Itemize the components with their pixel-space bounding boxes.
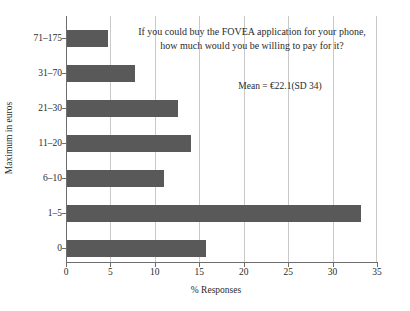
bar-11-20 (66, 135, 191, 152)
x-tick-label-0: 0 (64, 268, 69, 278)
mean-annotation: Mean = €22.1(SD 34) (205, 81, 355, 91)
gridline-35 (376, 16, 377, 262)
bar-1-5 (66, 205, 361, 222)
bar-6-10 (66, 170, 164, 187)
y-tick-label-0: 0 (57, 244, 62, 254)
y-axis-spine (66, 16, 67, 263)
bar-row (66, 93, 178, 123)
x-axis-title: % Responses (0, 285, 410, 295)
bar-row (66, 58, 135, 88)
y-tick-label-11-20: 11–20 (39, 139, 62, 149)
bar-row (66, 163, 164, 193)
y-tick-label-31-70: 31–70 (38, 69, 62, 79)
y-axis-title-text: Maximum in euros (4, 101, 14, 173)
y-tick-label-6-10: 6–10 (43, 174, 62, 184)
x-tick-label-30: 30 (328, 268, 338, 278)
x-tick-label-20: 20 (239, 268, 249, 278)
y-axis-title: Maximum in euros (2, 0, 16, 311)
bar-row (66, 23, 108, 53)
bar-row (66, 198, 361, 228)
chart-title: If you could buy the FOVEA application f… (118, 25, 386, 52)
x-tick-label-10: 10 (150, 268, 160, 278)
bar-row (66, 128, 191, 158)
plot-area (66, 16, 377, 262)
x-tick-label-35: 35 (372, 268, 382, 278)
x-axis-spine (66, 262, 378, 263)
bar-0 (66, 240, 206, 257)
chart-figure: 71–175 31–70 21–30 11–20 6–10 1–5 0 0 5 … (0, 0, 410, 311)
x-tick-label-25: 25 (283, 268, 293, 278)
chart-title-line-1: If you could buy the FOVEA application f… (138, 26, 366, 37)
y-tick-label-71-175: 71–175 (34, 34, 63, 44)
x-tick-label-5: 5 (108, 268, 113, 278)
bar-71-175 (66, 30, 108, 47)
bar-row (66, 233, 206, 263)
x-axis-title-text: % Responses (191, 285, 241, 295)
y-tick-label-21-30: 21–30 (38, 104, 62, 114)
y-tick-label-1-5: 1–5 (48, 209, 62, 219)
chart-title-line-2: how much would you be willing to pay for… (118, 39, 386, 53)
bar-31-70 (66, 65, 135, 82)
bar-21-30 (66, 100, 178, 117)
x-tick-label-15: 15 (195, 268, 205, 278)
